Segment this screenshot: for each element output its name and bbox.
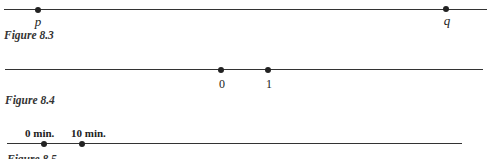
figure-caption: Figure 8.3	[4, 29, 54, 41]
point-q	[443, 6, 449, 12]
number-line	[4, 9, 487, 10]
figure-caption: Figure 8.5	[7, 153, 57, 159]
point-p	[35, 7, 41, 13]
figure-caption: Figure 8.4	[5, 94, 55, 106]
point-0	[218, 67, 224, 73]
point-label-p: p	[35, 14, 42, 30]
point-0-min	[41, 141, 47, 147]
point-label-q: q	[444, 13, 451, 29]
number-line	[7, 143, 462, 144]
point-label-10-min: 10 min.	[71, 127, 106, 139]
point-1	[265, 67, 271, 73]
point-label-0: 0	[219, 77, 225, 92]
point-label-0-min: 0 min.	[25, 127, 54, 139]
number-line	[5, 69, 483, 70]
point-label-1: 1	[266, 77, 272, 92]
point-10-min	[79, 141, 85, 147]
